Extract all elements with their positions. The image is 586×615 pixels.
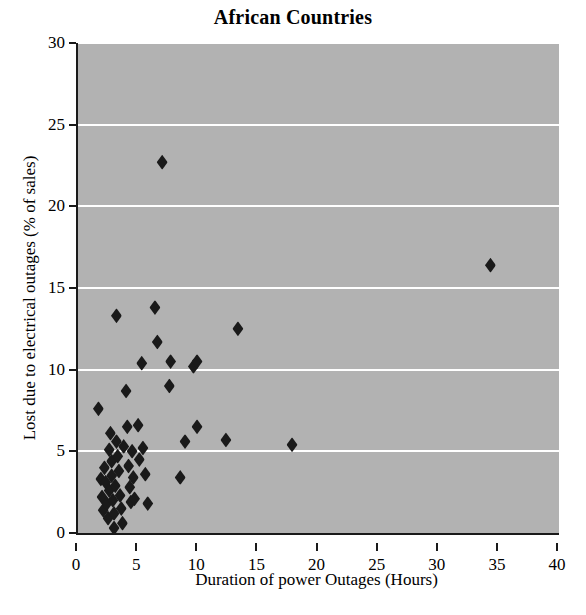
x-tick-mark-0 bbox=[75, 543, 77, 551]
data-point bbox=[104, 442, 115, 457]
data-point bbox=[192, 419, 203, 434]
data-point bbox=[93, 401, 104, 416]
x-tick-mark-10 bbox=[195, 543, 197, 551]
chart-title: African Countries bbox=[0, 6, 586, 29]
plot-area bbox=[76, 43, 559, 535]
x-tick-mark-20 bbox=[316, 543, 318, 551]
y-tick-mark-30 bbox=[69, 42, 76, 44]
gridline-y-30 bbox=[78, 43, 559, 44]
gridline-y-20 bbox=[78, 205, 559, 207]
data-point bbox=[164, 379, 175, 394]
gridline-y-5 bbox=[78, 450, 559, 452]
gridline-y-25 bbox=[78, 124, 559, 126]
data-point bbox=[220, 432, 231, 447]
gridline-y-15 bbox=[78, 287, 559, 289]
y-tick-mark-15 bbox=[69, 287, 76, 289]
x-tick-mark-30 bbox=[436, 543, 438, 551]
y-tick-mark-25 bbox=[69, 124, 76, 126]
x-tick-mark-40 bbox=[556, 543, 558, 551]
y-tick-mark-0 bbox=[69, 532, 76, 534]
y-tick-mark-5 bbox=[69, 450, 76, 452]
data-point bbox=[140, 467, 151, 482]
data-point bbox=[157, 155, 168, 170]
x-tick-mark-15 bbox=[255, 543, 257, 551]
data-point bbox=[142, 496, 153, 511]
y-tick-mark-20 bbox=[69, 205, 76, 207]
data-point bbox=[149, 300, 160, 315]
data-point bbox=[180, 434, 191, 449]
x-tick-mark-35 bbox=[496, 543, 498, 551]
x-tick-mark-5 bbox=[135, 543, 137, 551]
data-point bbox=[175, 470, 186, 485]
y-axis-title: Lost due to electrical outages (% of sal… bbox=[20, 53, 40, 543]
data-point bbox=[152, 334, 163, 349]
data-point bbox=[165, 354, 176, 369]
data-point bbox=[111, 308, 122, 323]
x-axis: 0510152025303540 bbox=[0, 543, 586, 569]
chart-figure: African Countries 051015202530 051015202… bbox=[0, 0, 586, 615]
data-point bbox=[232, 321, 243, 336]
x-tick-mark-25 bbox=[376, 543, 378, 551]
data-point bbox=[133, 418, 144, 433]
y-tick-label-30: 30 bbox=[25, 33, 65, 53]
x-axis-title: Duration of power Outages (Hours) bbox=[76, 570, 557, 590]
data-point bbox=[121, 383, 132, 398]
gridline-y-10 bbox=[78, 369, 559, 371]
y-tick-mark-10 bbox=[69, 369, 76, 371]
data-point bbox=[485, 258, 496, 273]
data-point bbox=[122, 419, 133, 434]
